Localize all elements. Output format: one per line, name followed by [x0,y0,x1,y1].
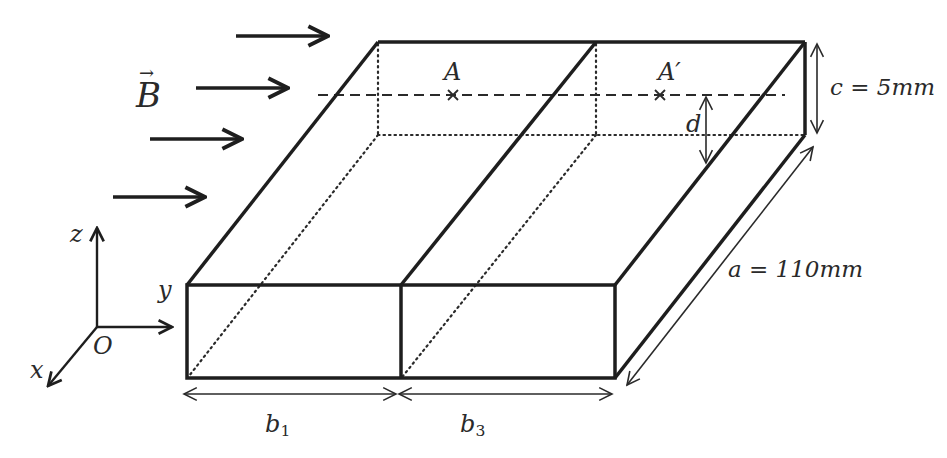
hidden-edges [189,44,803,376]
width-b3-subscript: 3 [475,422,485,440]
hidden-mid-depth-bottom [403,135,596,376]
vector-arrow-icon: → [139,64,154,82]
width-b3-symbol: b [460,410,475,438]
top-mid-depth-edge [401,42,596,285]
dimension-arrows [184,44,817,394]
point-a-prime-label: A′ [658,60,681,84]
depth-label: a = 110mm [728,258,863,281]
origin-label: O [93,334,113,358]
top-right-depth-edge [615,42,805,285]
coordinate-axes [48,228,172,386]
width-b1-subscript: 1 [280,422,290,440]
field-arrows [113,36,328,197]
visible-edges [187,42,805,378]
diagram-canvas: → B A A′ c = 5mm d a = 110mm b1 b3 z y O… [0,0,947,458]
y-axis-label: y [158,278,172,302]
height-label: c = 5mm [830,76,935,99]
field-label: → B [136,78,161,112]
top-left-depth-edge [187,42,378,285]
width-b1-label: b1 [265,412,290,439]
width-b3-label: b3 [460,412,485,439]
z-axis-label: z [70,222,83,246]
x-axis-label: x [30,358,44,382]
width-b1-symbol: b [265,410,280,438]
x-axis [48,327,97,386]
point-a-label: A [444,60,461,84]
hidden-left-depth-bottom [189,135,378,376]
offset-label: d [686,112,701,136]
